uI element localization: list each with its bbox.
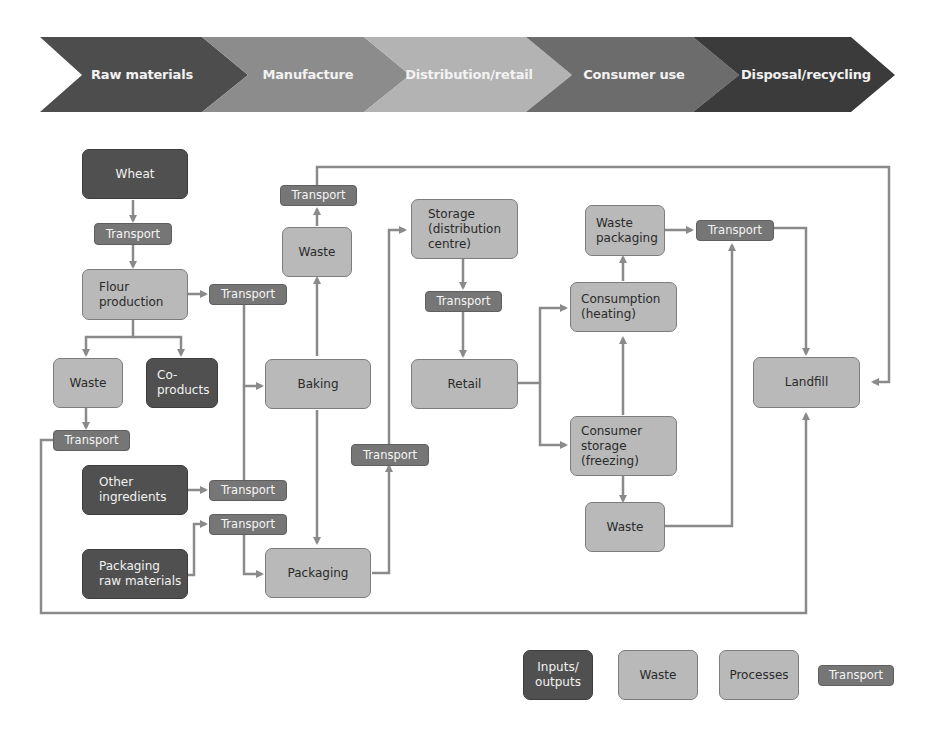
node-baking: Baking xyxy=(265,359,371,409)
node-storage-distribution: Storage (distribution centre) xyxy=(411,199,518,259)
node-transport-consumer-waste: Transport xyxy=(696,220,774,241)
node-flour-production: Flour production xyxy=(82,269,188,320)
node-consumer-storage: Consumer storage (freezing) xyxy=(570,416,677,476)
node-waste-consumer: Waste xyxy=(585,502,665,552)
stage-consumer-use: Consumer use xyxy=(572,63,696,87)
legend-transport: Transport xyxy=(818,665,894,686)
node-landfill: Landfill xyxy=(753,357,860,408)
node-transport-bake-waste: Transport xyxy=(280,185,357,206)
legend-waste: Waste xyxy=(618,650,698,700)
legend-processes: Processes xyxy=(719,650,799,700)
node-wheat: Wheat xyxy=(82,149,188,199)
node-consumption-heating: Consumption (heating) xyxy=(570,282,677,332)
legend-inputs-outputs: Inputs/ outputs xyxy=(523,650,593,700)
node-waste-baking: Waste xyxy=(282,227,352,277)
node-packaging-raw-materials: Packaging raw materials xyxy=(82,549,188,599)
node-transport-flour: Transport xyxy=(209,284,287,305)
node-transport-packaging-raw: Transport xyxy=(209,514,287,535)
node-transport-other: Transport xyxy=(209,480,287,501)
node-transport-wheat: Transport xyxy=(94,223,172,245)
life-cycle-diagram: Raw materials Manufacture Distribution/r… xyxy=(0,0,929,739)
node-transport-packaging: Transport xyxy=(351,444,429,466)
node-retail: Retail xyxy=(411,359,518,409)
node-waste-packaging: Waste packaging xyxy=(585,205,665,256)
node-packaging: Packaging xyxy=(265,548,371,598)
node-co-products: Co- products xyxy=(146,358,218,408)
stage-disposal-recycling: Disposal/recycling xyxy=(738,63,874,87)
stage-distribution-retail: Distribution/retail xyxy=(404,63,534,87)
stage-manufacture: Manufacture xyxy=(248,63,368,87)
node-transport-storage: Transport xyxy=(425,291,502,312)
stage-raw-materials: Raw materials xyxy=(82,63,202,87)
node-other-ingredients: Other ingredients xyxy=(82,465,188,515)
node-transport-waste-flour: Transport xyxy=(53,430,130,451)
node-waste-flour: Waste xyxy=(53,358,123,408)
